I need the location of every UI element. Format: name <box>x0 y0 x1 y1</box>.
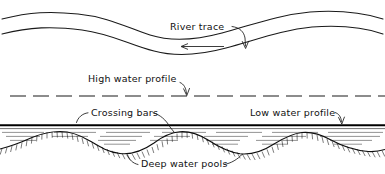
riverbed-hatching <box>0 132 385 161</box>
crossing-bars-label: Crossing bars <box>91 107 158 118</box>
diagram-canvas: River trace High water profile <box>0 0 385 174</box>
high-water-profile-leader <box>180 83 190 96</box>
low-water-profile-group <box>0 125 385 128</box>
river-trace-label: River trace <box>170 21 224 32</box>
low-water-profile-leader <box>335 113 344 125</box>
river-plan-view <box>2 11 383 54</box>
low-water-profile-label: Low water profile <box>250 107 335 118</box>
high-water-profile-label: High water profile <box>88 73 177 84</box>
deep-water-pools-label: Deep water pools <box>141 158 228 169</box>
flow-direction-arrow-icon <box>181 44 224 50</box>
